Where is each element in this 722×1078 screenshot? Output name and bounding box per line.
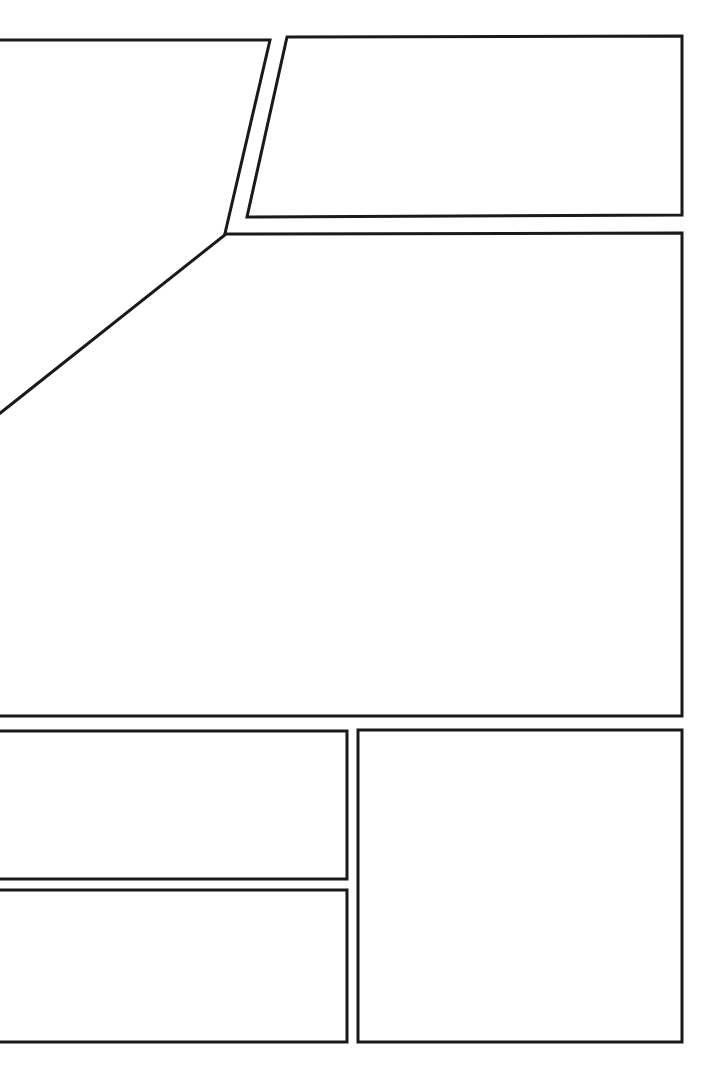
comic-page (0, 0, 722, 1078)
panel-5-label (0, 893, 344, 1039)
panel-3-label (232, 237, 679, 713)
panel-2-content-area[interactable] (292, 40, 679, 213)
panel-1-content-area[interactable] (0, 43, 255, 411)
panel-4-label (0, 734, 344, 876)
panel-5-content-area[interactable] (0, 893, 344, 1039)
panel-6-content-area[interactable] (361, 733, 679, 1039)
panel-3-content-area[interactable] (232, 237, 679, 713)
panel-6-label (361, 733, 679, 1039)
panel-1-label (0, 43, 255, 411)
panel-2-label (292, 40, 679, 213)
panel-4-content-area[interactable] (0, 734, 344, 876)
